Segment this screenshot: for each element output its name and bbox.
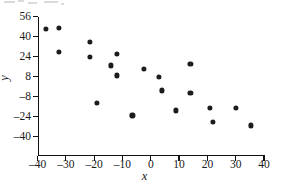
y-tick-mark — [33, 116, 38, 117]
y-tick-mark — [33, 16, 38, 17]
y-tick-mark — [33, 36, 38, 37]
y-tick-mark — [33, 96, 38, 97]
data-point — [130, 113, 135, 118]
data-point — [109, 63, 114, 68]
data-point — [174, 108, 179, 113]
data-point — [94, 100, 99, 105]
data-point — [87, 54, 92, 59]
data-point — [159, 88, 164, 93]
data-point — [188, 90, 193, 95]
data-point — [210, 119, 215, 124]
y-tick-label: –24 — [5, 111, 31, 123]
data-point — [141, 67, 146, 72]
data-point — [114, 73, 119, 78]
data-point — [188, 62, 193, 67]
data-point — [233, 105, 238, 110]
data-point — [56, 49, 61, 54]
y-tick-label: 24 — [5, 51, 31, 63]
y-tick-label: –40 — [5, 131, 31, 143]
y-tick-label: 56 — [5, 11, 31, 23]
y-axis-label: y — [0, 75, 12, 81]
data-point — [157, 74, 162, 79]
y-tick-mark — [33, 136, 38, 137]
data-point — [114, 52, 119, 57]
data-point — [208, 105, 213, 110]
data-point — [56, 25, 61, 30]
data-point — [87, 39, 92, 44]
scatter-plot-figure: 5640248–8–24–40 –40–30–20–10010203040 y … — [0, 0, 289, 182]
y-tick-label: –8 — [5, 91, 31, 103]
data-point — [43, 27, 48, 32]
data-point — [249, 123, 254, 128]
scan-artifact — [4, 0, 64, 7]
y-tick-mark — [33, 76, 38, 77]
y-tick-mark — [33, 56, 38, 57]
x-axis-label: x — [0, 169, 289, 182]
y-axis-line — [38, 17, 39, 156]
y-tick-label: 40 — [5, 31, 31, 43]
